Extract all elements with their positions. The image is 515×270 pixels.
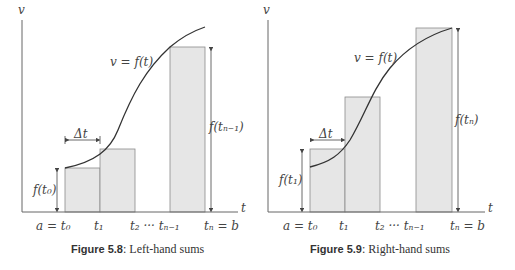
tick-label-t1: t₁ xyxy=(339,219,349,233)
tick-label-t2-tn-1: t₂ ··· tₙ₋₁ xyxy=(130,219,180,233)
tick-label-b: tₙ = b xyxy=(450,219,485,233)
caption-text: : Right-hand sums xyxy=(362,242,450,256)
caption-text: : Left-hand sums xyxy=(123,242,205,256)
tick-label-a: a = t₀ xyxy=(36,219,71,233)
rect-2 xyxy=(100,149,135,212)
tick-label-t2-tn-1: t₂ ··· tₙ₋₁ xyxy=(375,219,425,233)
caption-left: Figure 5.8: Left-hand sums xyxy=(71,242,205,256)
left-hand-sums-figure: Δt f(t₀) f(tₙ₋₁) v t v = f(t) a = t₀ t₁ … xyxy=(18,3,246,256)
tick-label-a: a = t₀ xyxy=(283,219,318,233)
f-tn-1-label: f(tₙ₋₁) xyxy=(208,120,244,134)
curve-label: v = f(t) xyxy=(110,55,153,69)
caption-right: Figure 5.9: Right-hand sums xyxy=(310,242,450,256)
f-t0-label: f(t₀) xyxy=(32,183,57,197)
rect-last xyxy=(416,28,452,212)
rect-2 xyxy=(345,97,380,212)
riemann-sum-figures: Δt f(t₀) f(tₙ₋₁) v t v = f(t) a = t₀ t₁ … xyxy=(0,0,515,270)
delta-t-label: Δt xyxy=(73,127,88,141)
rect-1 xyxy=(65,168,100,212)
rect-last xyxy=(170,47,205,212)
tick-label-t1: t₁ xyxy=(94,219,104,233)
curve-label: v = f(t) xyxy=(354,51,397,65)
f-t1-label: f(t₁) xyxy=(278,173,303,187)
caption-number: Figure 5.9 xyxy=(310,243,362,255)
delta-t-label: Δt xyxy=(318,127,333,141)
rect-1 xyxy=(310,149,345,212)
v-axis-label: v xyxy=(263,3,270,17)
tick-label-b: tₙ = b xyxy=(204,219,239,233)
caption-number: Figure 5.8 xyxy=(71,243,123,255)
t-axis-label: t xyxy=(241,201,246,215)
right-hand-sums-figure: Δt f(t₁) f(tₙ) v t v = f(t) a = t₀ t₁ t₂… xyxy=(263,3,493,256)
t-axis-label: t xyxy=(488,201,493,215)
f-tn-label: f(tₙ) xyxy=(454,113,479,127)
v-axis-label: v xyxy=(18,3,25,17)
